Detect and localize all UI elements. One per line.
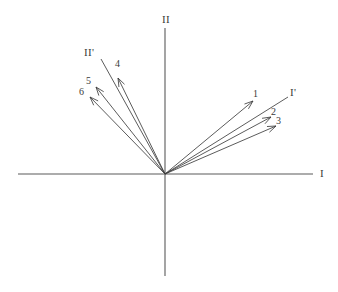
axis-label-II: II (162, 14, 170, 25)
vector-3-line (165, 126, 276, 174)
rotated-axes-group (101, 59, 288, 174)
vector-4-line (118, 78, 165, 174)
vector-6-line (90, 97, 165, 174)
axis-label-II-prime: II' (84, 47, 94, 58)
vectors-group (90, 78, 276, 174)
axis-label-I: I (320, 168, 324, 179)
coordinate-axes-group (18, 28, 313, 276)
axis-II-prime-line (101, 59, 165, 174)
vector-1-line (165, 101, 253, 174)
vector-2-line (165, 117, 271, 174)
vector-label-6: 6 (79, 87, 84, 97)
axis-label-I-prime: I' (290, 87, 296, 98)
vector-label-4: 4 (115, 59, 120, 69)
vector-diagram-figure: I II I' II' 1 2 3 4 5 6 (0, 0, 338, 292)
diagram-canvas (0, 0, 338, 292)
vector-5-line (96, 87, 165, 174)
vector-label-3: 3 (276, 116, 281, 126)
vector-label-1: 1 (253, 89, 258, 99)
vector-4-arrowhead (118, 78, 125, 87)
axis-I-prime-line (165, 97, 288, 174)
vector-2-arrowhead (262, 117, 271, 124)
vector-label-5: 5 (86, 76, 91, 86)
